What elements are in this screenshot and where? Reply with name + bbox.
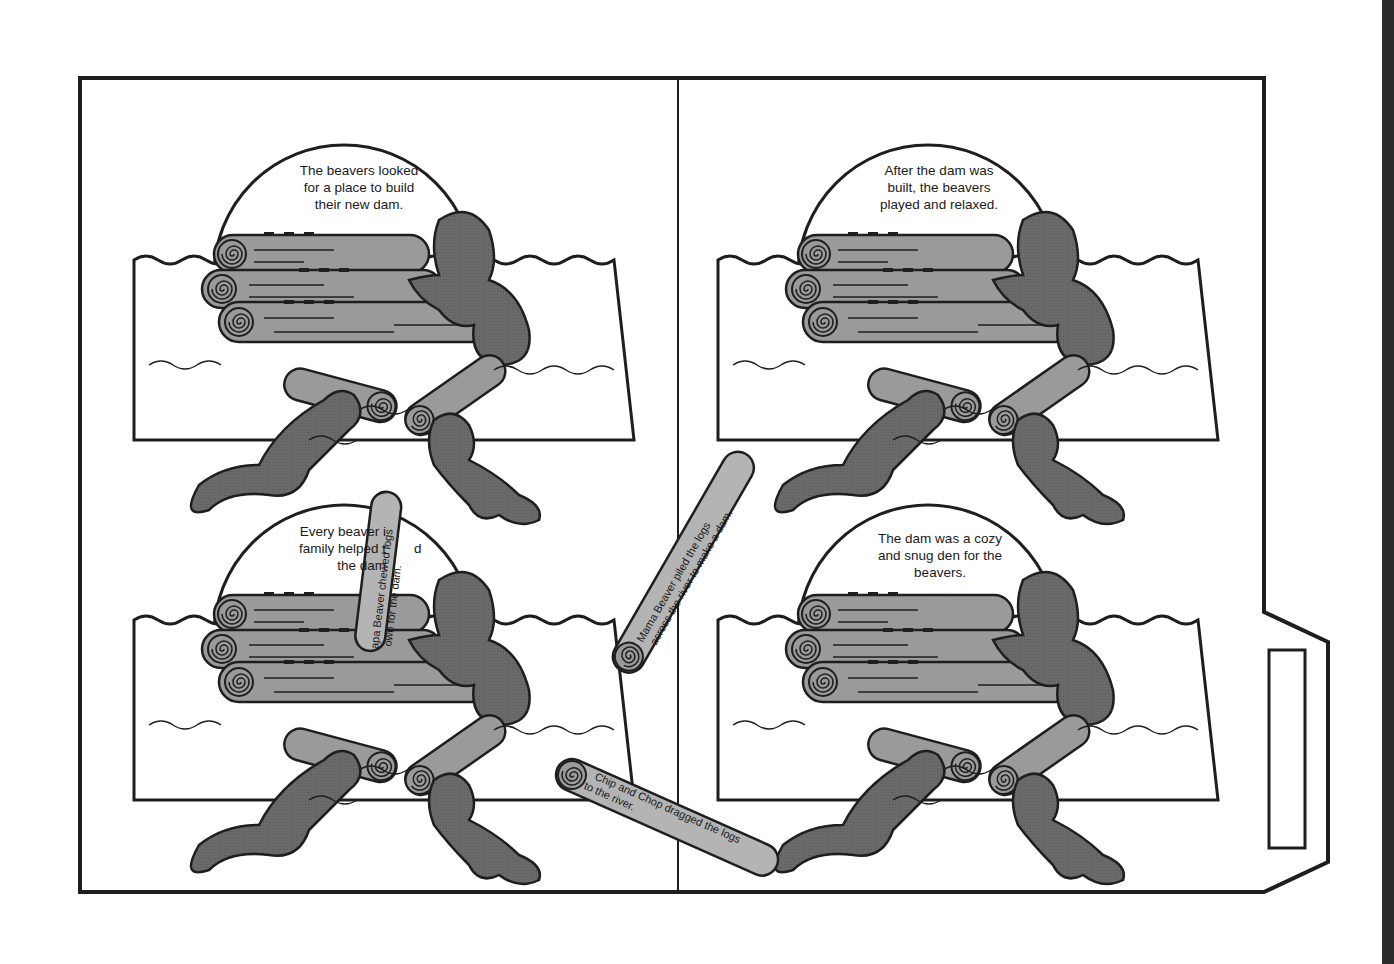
caption-line: The dam was a cozy (840, 530, 1040, 547)
caption-line: d (414, 540, 434, 557)
caption-line: built, the beavers (834, 179, 1044, 196)
caption-line: the dam (266, 557, 386, 574)
caption-line: for a place to build (254, 179, 464, 196)
folder-tab-label-box (1269, 650, 1305, 848)
caption-line: and snug den for the (840, 547, 1040, 564)
caption-line: family helped t (266, 540, 386, 557)
caption-bottom-left-fragment: d (414, 540, 434, 557)
caption-line: The beavers looked (254, 162, 464, 179)
caption-bottom-left: Every beaver i family helped t the dam (266, 523, 386, 574)
caption-line: played and relaxed. (834, 196, 1044, 213)
caption-line: Every beaver i (266, 523, 386, 540)
caption-line: beavers. (840, 564, 1040, 581)
caption-top-right: After the dam was built, the beavers pla… (834, 162, 1044, 213)
caption-line: After the dam was (834, 162, 1044, 179)
caption-bottom-right: The dam was a cozy and snug den for the … (840, 530, 1040, 581)
caption-line: their new dam. (254, 196, 464, 213)
caption-top-left: The beavers looked for a place to build … (254, 162, 464, 213)
